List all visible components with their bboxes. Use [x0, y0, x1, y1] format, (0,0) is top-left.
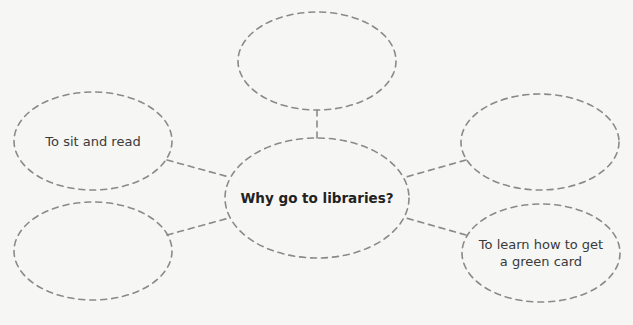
bubble-left: To sit and read: [14, 92, 172, 190]
bubble-right: [461, 94, 619, 190]
connector-bottom-right: [406, 218, 466, 235]
connector-right: [406, 160, 466, 177]
connector-left: [167, 160, 229, 177]
connector-bottom-left: [167, 218, 229, 235]
bubble-center: Why go to libraries?: [225, 138, 409, 258]
bubble-bottom-right-label: To learn how to get a green card: [478, 236, 604, 270]
bubble-bottom-right: To learn how to get a green card: [462, 204, 620, 302]
concept-web-diagram: To sit and read Why go to libraries? To …: [0, 0, 633, 325]
bubble-left-label: To sit and read: [45, 133, 140, 150]
central-question: Why go to libraries?: [240, 190, 393, 207]
bubble-bottom-left: [14, 202, 172, 300]
bubble-top: [238, 12, 396, 110]
